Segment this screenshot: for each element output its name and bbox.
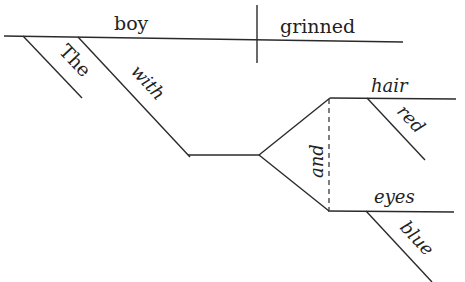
modifier-word-blue: blue (396, 216, 438, 259)
object-line-hair (330, 98, 456, 99)
predicate-word: grinned (280, 15, 355, 37)
object-word-hair: hair (371, 75, 409, 96)
subject-word: boy (114, 12, 149, 34)
conjunction-word: and (306, 144, 327, 178)
object-line-eyes (328, 211, 454, 212)
preposition-slant-line (78, 37, 190, 157)
article-word: The (55, 40, 96, 81)
object-word-eyes: eyes (374, 186, 415, 207)
sentence-diagram: boy grinned The with and hair red eyes b… (0, 0, 465, 282)
